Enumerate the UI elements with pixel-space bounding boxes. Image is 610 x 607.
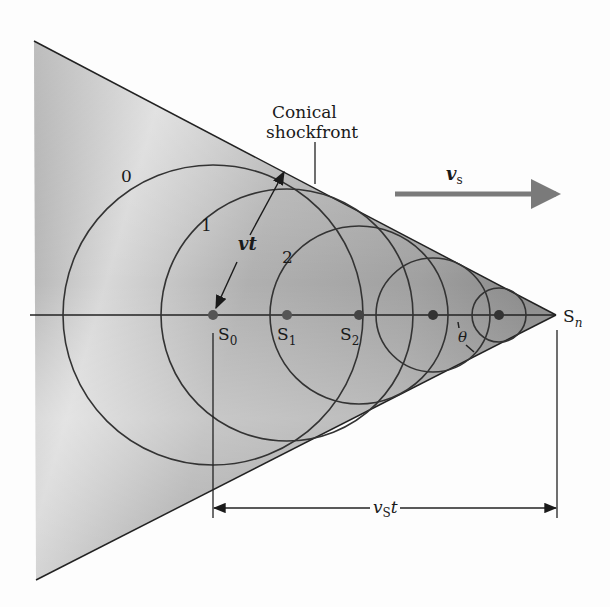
wavefront-label-0: 0 [121, 166, 132, 186]
source-dot-1 [282, 310, 292, 320]
velocity-label: vs [446, 163, 463, 187]
shockfront-diagram: Conical shockfront 0 1 2 vt vs S0 S1 S2 … [0, 0, 610, 607]
shockfront-label-line1: Conical [272, 102, 337, 122]
source-dot-4 [494, 310, 504, 320]
source-dot-2 [354, 310, 364, 320]
shockfront-label-line2: shockfront [266, 122, 358, 142]
wavefront-label-1: 1 [201, 215, 212, 235]
wavefront-label-2: 2 [282, 247, 293, 267]
distance-label: vSt [373, 497, 398, 520]
source-dot-3 [428, 310, 438, 320]
diagram-canvas: Conical shockfront 0 1 2 vt vs S0 S1 S2 … [0, 0, 610, 607]
angle-label: θ [458, 328, 467, 346]
radius-label: vt [238, 233, 257, 254]
source-label-n: Sn [563, 306, 582, 330]
source-dot-0 [208, 310, 218, 320]
